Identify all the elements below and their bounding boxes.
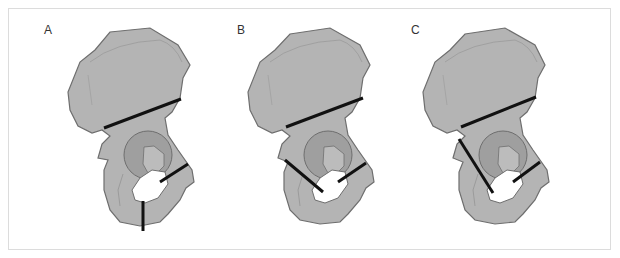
panel-b: B [200,0,400,258]
panel-a: A [0,0,200,258]
hip-bone-illustration-b [200,0,410,258]
hip-bone-b [248,28,374,224]
hip-bone-c [423,28,549,224]
hip-bone-illustration-c [400,0,610,258]
panel-c: C [400,0,600,258]
hip-bone-illustration-a [0,0,210,258]
hip-bone-a [68,28,194,226]
